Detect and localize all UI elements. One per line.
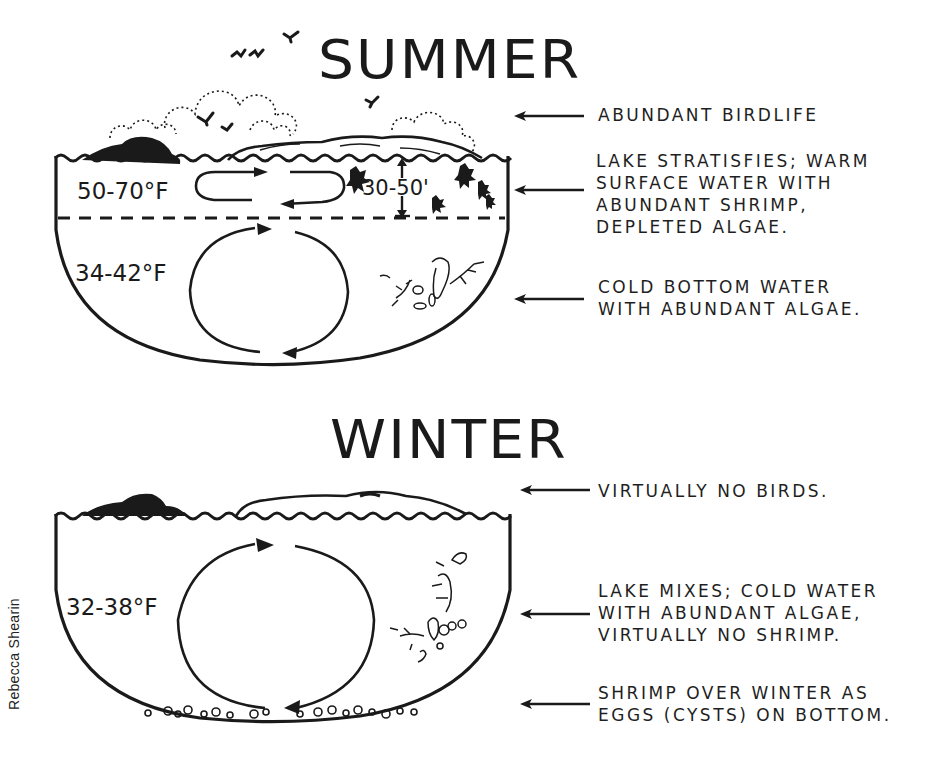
arrow-left-icon (520, 484, 590, 496)
annotation-no-birds: VIRTUALLY NO BIRDS. (598, 480, 829, 502)
arrow-left-icon (520, 698, 590, 710)
annotation-cysts: SHRIMP OVER WINTER AS EGGS (CYSTS) ON BO… (598, 682, 892, 726)
annotation-lake-mixes: LAKE MIXES; COLD WATER WITH ABUNDANT ALG… (598, 580, 878, 646)
whole-lake-temperature: 32-38°F (66, 594, 158, 620)
artist-credit: Rebecca Shearin (6, 598, 22, 710)
arrow-left-icon (520, 608, 590, 620)
